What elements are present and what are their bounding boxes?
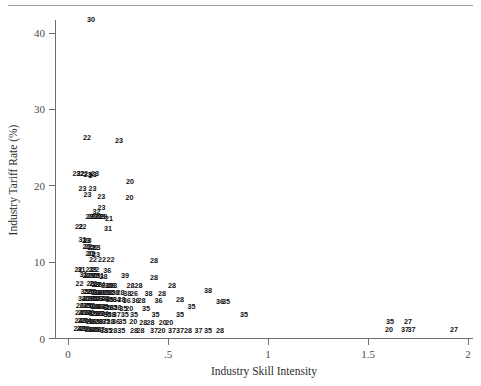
- data-point-label: 35: [188, 302, 196, 311]
- scatter-plot-figure: 010203040 0.511.52 302223232222232232320…: [0, 0, 481, 386]
- x-tick-label: .5: [164, 348, 173, 360]
- data-point-label: 31: [104, 224, 112, 233]
- data-point-label: 38: [204, 286, 212, 295]
- data-point-label: 37: [408, 325, 416, 334]
- y-tick-label: 20: [34, 180, 46, 192]
- data-point-label: 28: [216, 326, 224, 335]
- data-point-label: 23: [84, 190, 92, 199]
- data-point-label: 28: [109, 326, 117, 335]
- data-point-label: 23: [97, 192, 105, 201]
- data-point-label: 20: [126, 193, 134, 202]
- data-point-label: 20: [385, 325, 393, 334]
- data-point-label: 28: [184, 326, 192, 335]
- data-point-label: 28: [150, 273, 158, 282]
- data-point-label: 37: [176, 326, 184, 335]
- data-point-label: 35: [222, 297, 230, 306]
- data-point-label: 20: [126, 177, 134, 186]
- y-tick-label: 10: [34, 256, 46, 268]
- x-tick-label: 2: [465, 348, 471, 360]
- data-point-label: 23: [115, 136, 123, 145]
- x-axis-title: Industry Skill Intensity: [211, 365, 317, 378]
- y-tick-label: 30: [34, 103, 46, 115]
- x-tick-label: 1: [265, 348, 271, 360]
- data-point-label: 28: [176, 295, 184, 304]
- data-point-label: 37: [194, 326, 202, 335]
- x-ticks-group: 0.511.52: [65, 339, 471, 361]
- data-point-label: 21: [105, 214, 113, 223]
- x-tick-label: 0: [65, 348, 71, 360]
- data-point-label: 28: [168, 281, 176, 290]
- data-point-label: 27: [450, 325, 458, 334]
- y-ticks-group: 010203040: [34, 27, 56, 345]
- plot-canvas: 010203040 0.511.52 302223232222232232320…: [0, 0, 481, 386]
- data-point-label: 22: [78, 222, 86, 231]
- y-tick-label: 0: [40, 333, 46, 345]
- data-point-label: 35: [117, 326, 125, 335]
- data-point-label: 23: [91, 169, 99, 178]
- y-tick-label: 40: [34, 27, 46, 39]
- data-point-label: 35: [176, 310, 184, 319]
- data-point-label: 35: [204, 326, 212, 335]
- data-point-label: 22: [83, 133, 91, 142]
- data-point-label: 22: [89, 255, 97, 264]
- data-point-label: 28: [136, 326, 144, 335]
- data-point-label: 36: [154, 296, 162, 305]
- data-point-label: 39: [121, 271, 129, 280]
- data-point-label: 30: [87, 15, 95, 24]
- data-point-label: 35: [142, 304, 150, 313]
- data-point-label: 22: [106, 255, 114, 264]
- data-point-label: 22: [98, 255, 106, 264]
- x-tick-label: 1.5: [361, 348, 375, 360]
- y-axis-title: Industry Tariff Rate (%): [7, 124, 20, 235]
- data-point-label: 35: [240, 310, 248, 319]
- data-point-label: 37: [168, 326, 176, 335]
- data-points-group: 3022232322222322323202323232320233223232…: [72, 15, 458, 336]
- data-point-label: 28: [150, 256, 158, 265]
- data-point-label: 20: [158, 326, 166, 335]
